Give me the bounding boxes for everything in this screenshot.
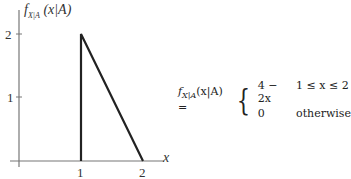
formula-cases: 4 − 2x 1 ≤ x ≤ 2 0 otherwise <box>258 79 351 120</box>
case1-cond: 1 ≤ x ≤ 2 <box>296 79 351 105</box>
formula-lhs: fX|A(x|A) = <box>178 85 230 113</box>
density-line <box>81 34 143 161</box>
case2-cond: otherwise <box>296 107 351 120</box>
x-tick-label-2: 2 <box>139 166 146 179</box>
x-axis-label: x <box>163 151 169 165</box>
pdf-formula: fX|A(x|A) = { 4 − 2x 1 ≤ x ≤ 2 0 otherwi… <box>178 79 351 120</box>
brace-icon: { <box>237 85 250 115</box>
y-axis-label: fX|A (x|A) <box>24 3 71 20</box>
case2-expr: 0 <box>258 107 284 120</box>
y-tick-label-2: 2 <box>5 28 12 41</box>
x-tick-label-1: 1 <box>77 166 84 179</box>
case1-expr: 4 − 2x <box>258 79 284 105</box>
y-tick-label-1: 1 <box>7 91 14 104</box>
